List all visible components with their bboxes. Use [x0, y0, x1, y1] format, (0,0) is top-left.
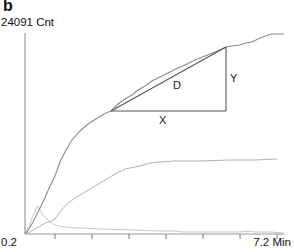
- vertical-leg-label: Y: [230, 72, 238, 84]
- curve-plateau: [25, 159, 277, 234]
- axes: [25, 33, 284, 234]
- slope-triangle: [111, 47, 226, 111]
- x-axis-ticks: [55, 234, 277, 239]
- chart-plot-area: D Y X: [0, 0, 294, 252]
- curve-early-peak: [25, 206, 284, 234]
- horizontal-leg-label: X: [159, 114, 167, 126]
- hypotenuse-label: D: [173, 79, 181, 91]
- triangle-hypotenuse: [111, 47, 226, 111]
- curve-main: [25, 34, 284, 234]
